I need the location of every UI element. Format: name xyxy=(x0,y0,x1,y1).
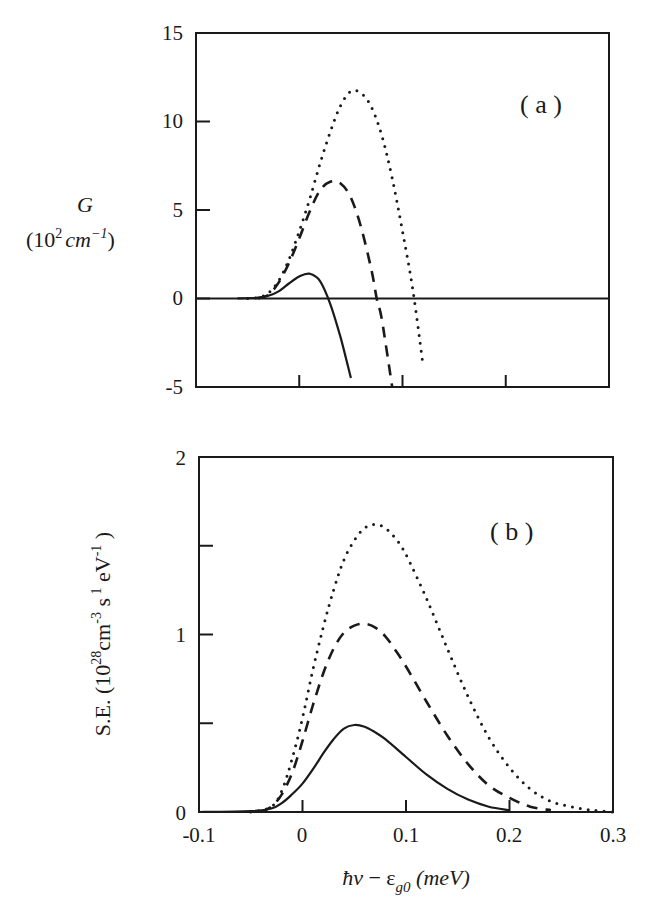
curve-solid xyxy=(199,725,510,812)
ytick-label: 10 xyxy=(162,109,183,133)
xtick-label: 0.1 xyxy=(393,823,419,847)
panel-b-label: ( b ) xyxy=(490,517,533,546)
curve-dashed xyxy=(261,624,551,812)
panel-a-ticks xyxy=(196,122,506,388)
panel-b-ytick-labels: 2 1 0 xyxy=(176,446,187,825)
panel-b-ticks xyxy=(199,546,510,812)
curve-dashed xyxy=(258,181,392,387)
xtick-label: 0.2 xyxy=(496,823,522,847)
x-axis-title: ħν − εg0 (meV) xyxy=(342,865,470,895)
panel-a: ( a ) 15 10 5 0 -5 G (102cm−1) xyxy=(26,21,609,399)
curve-dotted xyxy=(248,90,424,365)
panel-b-frame xyxy=(199,457,613,812)
xtick-label: -0.1 xyxy=(182,823,215,847)
curve-dotted xyxy=(251,525,613,813)
xtick-label: 0 xyxy=(297,823,308,847)
panel-a-frame xyxy=(196,33,609,387)
curve-solid xyxy=(237,274,351,379)
panel-b-curves xyxy=(199,525,613,813)
ylabel-symbol: G xyxy=(77,192,93,217)
panel-a-label: ( a ) xyxy=(520,90,562,119)
panel-b: ( b ) 2 1 0 -0.1 0 0.1 0.2 0.3 S.E. (102… xyxy=(89,446,626,895)
figure-canvas: ( a ) 15 10 5 0 -5 G (102cm−1) ( b ) 2 1… xyxy=(0,0,653,913)
ylabel-unit: (102cm−1) xyxy=(26,226,115,252)
xtick-label: 0.3 xyxy=(600,823,626,847)
ytick-label: 1 xyxy=(176,623,187,647)
panel-b-ylabel: S.E. (1028cm-3 s 1 eV-1 ) xyxy=(89,532,115,736)
panel-a-ylabel: G (102cm−1) xyxy=(26,192,115,252)
panel-a-curves xyxy=(237,90,423,387)
ytick-label: 2 xyxy=(176,446,187,470)
ytick-label: 0 xyxy=(176,801,187,825)
ytick-label: 15 xyxy=(162,21,183,45)
ytick-label: 0 xyxy=(173,286,184,310)
ytick-label: 5 xyxy=(173,198,184,222)
panel-b-xtick-labels: -0.1 0 0.1 0.2 0.3 xyxy=(182,823,626,847)
panel-a-ytick-labels: 15 10 5 0 -5 xyxy=(162,21,183,399)
ytick-label: -5 xyxy=(166,375,184,399)
